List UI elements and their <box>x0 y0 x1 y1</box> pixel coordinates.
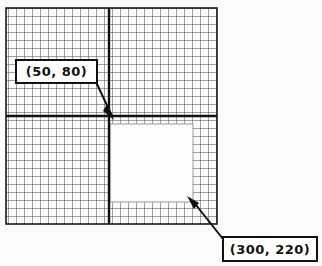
coordinate-callout-start: (50, 80) <box>15 59 98 84</box>
coordinate-callout-end-label: (300, 220) <box>230 242 311 257</box>
grid-figure <box>0 0 322 266</box>
coordinate-callout-start-label: (50, 80) <box>26 64 88 79</box>
cutout-rectangle <box>110 124 193 202</box>
coordinate-callout-end: (300, 220) <box>222 236 318 262</box>
diagram-canvas: (50, 80) (300, 220) <box>0 0 322 266</box>
